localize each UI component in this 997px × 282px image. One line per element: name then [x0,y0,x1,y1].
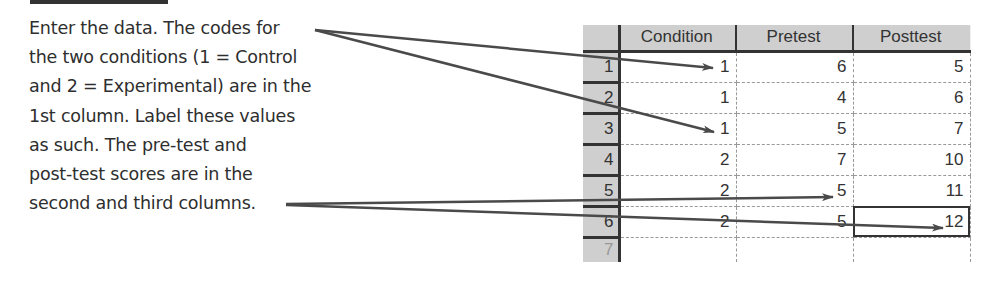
arrow-to-condition-codes [315,30,713,68]
arrow-to-experimental-code [315,30,714,132]
arrow-to-pretest-column [286,197,833,204]
arrow-to-posttest-column [286,205,943,228]
callout-arrows [0,0,997,282]
